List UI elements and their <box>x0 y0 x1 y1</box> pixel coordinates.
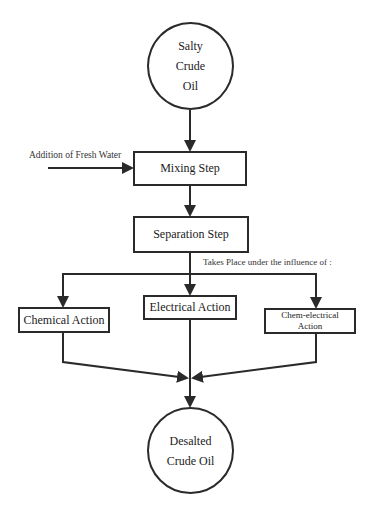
separation-step-node: Separation Step <box>133 216 249 253</box>
fresh-water-label: Addition of Fresh Water <box>29 150 121 160</box>
node-label: Separation Step <box>153 228 229 241</box>
arrow-chem-electrical-to-merge <box>193 333 316 378</box>
node-text-line: Salty <box>178 36 203 56</box>
node-text-line: Desalted <box>170 431 212 451</box>
arrow-chemical-to-merge <box>63 333 187 378</box>
node-text-line: Crude Oil <box>167 451 215 471</box>
node-text-line: Action <box>298 321 323 332</box>
influence-label: Takes Place under the influence of : <box>203 257 332 267</box>
node-text-line: Crude <box>176 56 205 76</box>
node-text-line: Oil <box>183 76 198 96</box>
chemical-action-node: Chemical Action <box>18 307 110 333</box>
node-label: Electrical Action <box>150 301 231 314</box>
node-text-line: Chem-electrical <box>281 310 338 321</box>
mixing-step-node: Mixing Step <box>133 151 247 186</box>
chem-electrical-action-node: Chem-electrical Action <box>264 308 356 334</box>
node-label: Mixing Step <box>160 162 220 175</box>
desalted-crude-oil-node: Desalted Crude Oil <box>147 407 234 494</box>
salty-crude-oil-node: Salty Crude Oil <box>147 22 234 110</box>
node-label: Chemical Action <box>24 314 105 327</box>
electrical-action-node: Electrical Action <box>143 295 237 320</box>
